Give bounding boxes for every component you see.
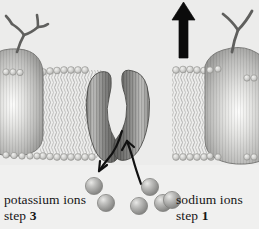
sodium-ion — [130, 197, 147, 214]
potassium-ions-label: potassium ions step 3 — [4, 192, 86, 223]
right-integral-protein — [205, 48, 259, 165]
potassium-ion — [85, 177, 102, 194]
sodium-step-number: 1 — [202, 208, 209, 223]
left-integral-protein — [0, 49, 43, 159]
potassium-step-word: step — [4, 208, 26, 223]
sodium-ion — [141, 178, 158, 195]
sodium-potassium-pump-figure: potassium ions step 3 sodium ions step 1 — [0, 0, 259, 229]
sodium-step-line: step 1 — [176, 208, 243, 224]
potassium-step-number: 3 — [30, 208, 37, 223]
potassium-step-line: step 3 — [4, 208, 86, 224]
sodium-step-word: step — [176, 208, 198, 223]
sodium-ions-name: sodium ions — [176, 192, 243, 208]
potassium-ion — [97, 194, 114, 211]
sodium-ions-label: sodium ions step 1 — [176, 192, 243, 223]
potassium-ions-name: potassium ions — [4, 192, 86, 208]
